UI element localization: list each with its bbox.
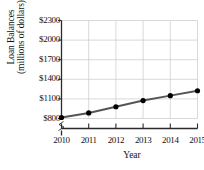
loan-balances-line-chart: Loan Balances (millions of dollars) $800… (0, 0, 204, 170)
plot-area (0, 0, 204, 170)
x-axis-ticks (62, 124, 198, 129)
data-line (62, 91, 198, 118)
